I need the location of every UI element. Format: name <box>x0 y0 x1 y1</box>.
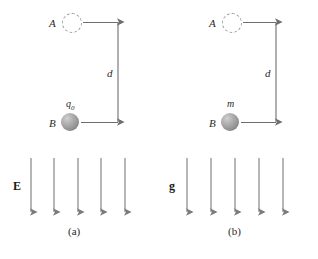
panel-b-vectors <box>159 0 318 259</box>
field-label-g: g <box>169 180 175 192</box>
field-label-e: E <box>13 180 21 192</box>
physics-figure: A B q0 d <box>0 0 318 259</box>
caption-a: (a) <box>68 226 80 237</box>
panel-a-vectors <box>0 0 159 259</box>
caption-b: (b) <box>228 226 241 237</box>
panel-a-electric-field: A B q0 d <box>0 0 159 259</box>
panel-b-gravitational-field: A B m d <box>159 0 318 259</box>
